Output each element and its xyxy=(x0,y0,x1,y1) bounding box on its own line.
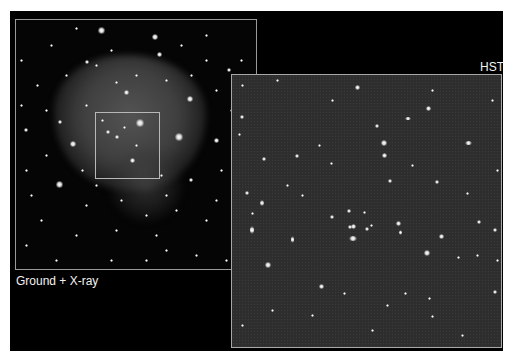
galaxy xyxy=(311,314,314,317)
star xyxy=(45,109,48,112)
star xyxy=(240,59,243,62)
galaxy xyxy=(343,292,346,295)
galaxy xyxy=(381,140,387,146)
galaxy xyxy=(461,334,464,337)
star xyxy=(56,181,63,188)
star xyxy=(55,259,58,262)
galaxy xyxy=(301,194,304,197)
galaxy xyxy=(466,192,469,195)
galaxy xyxy=(286,184,289,187)
galaxy xyxy=(365,227,369,231)
star xyxy=(175,209,178,212)
galaxy xyxy=(330,162,333,165)
ground-xray-label: Ground + X-ray xyxy=(16,275,98,287)
galaxy xyxy=(428,297,431,300)
galaxy xyxy=(295,154,299,158)
galaxy xyxy=(496,259,499,262)
star xyxy=(120,199,123,202)
star xyxy=(187,96,193,102)
galaxy xyxy=(476,254,479,257)
star xyxy=(205,219,208,222)
star xyxy=(175,133,183,141)
galaxy xyxy=(262,157,266,161)
star xyxy=(152,34,158,40)
star xyxy=(190,74,193,77)
star xyxy=(50,44,53,47)
galaxy xyxy=(371,329,374,332)
star xyxy=(85,204,88,207)
galaxy xyxy=(370,224,373,227)
star xyxy=(25,169,28,172)
star xyxy=(205,34,208,37)
hst-label: HST xyxy=(480,61,504,73)
star xyxy=(220,169,223,172)
star xyxy=(75,234,78,237)
star xyxy=(145,259,148,262)
ground-xray-image xyxy=(15,19,257,270)
star xyxy=(20,59,23,62)
star xyxy=(30,194,33,197)
galaxy xyxy=(396,221,401,226)
star xyxy=(214,138,219,143)
star xyxy=(81,169,84,172)
galaxy xyxy=(240,115,244,119)
star xyxy=(135,74,138,77)
galaxy xyxy=(404,292,407,295)
star xyxy=(20,104,23,107)
galaxy xyxy=(330,215,334,219)
galaxy xyxy=(386,304,389,307)
star xyxy=(145,214,148,217)
galaxy xyxy=(424,250,430,256)
star xyxy=(180,44,183,47)
galaxy xyxy=(431,315,434,318)
galaxy xyxy=(241,84,244,87)
star xyxy=(115,81,118,84)
star xyxy=(85,60,89,64)
star xyxy=(225,259,228,262)
galaxy xyxy=(349,236,357,241)
galaxy xyxy=(493,290,497,294)
galaxy xyxy=(347,209,351,213)
galaxy xyxy=(457,256,460,259)
star xyxy=(227,68,231,72)
star xyxy=(95,64,98,67)
star xyxy=(155,234,158,237)
star xyxy=(40,219,43,222)
galaxy xyxy=(431,89,434,92)
galaxy xyxy=(260,200,264,206)
star xyxy=(45,154,48,157)
star xyxy=(36,84,39,87)
star xyxy=(85,104,88,107)
star xyxy=(165,79,168,82)
galaxy xyxy=(251,212,254,215)
star xyxy=(189,178,193,182)
star xyxy=(215,89,218,92)
star xyxy=(58,120,62,124)
galaxy xyxy=(399,230,402,235)
galaxy xyxy=(276,79,279,82)
star xyxy=(75,27,78,30)
galaxy xyxy=(271,309,274,312)
star xyxy=(195,254,198,257)
star xyxy=(98,27,105,34)
galaxy xyxy=(493,228,497,232)
galaxy xyxy=(439,234,444,239)
galaxy xyxy=(331,99,334,102)
galaxy xyxy=(388,179,392,183)
star xyxy=(115,229,118,232)
galaxy xyxy=(265,262,271,268)
star xyxy=(165,194,168,197)
galaxy xyxy=(375,124,379,128)
star xyxy=(157,52,162,57)
galaxy xyxy=(355,85,360,90)
star xyxy=(95,184,98,187)
galaxy xyxy=(435,180,439,184)
galaxy xyxy=(238,133,241,136)
galaxy xyxy=(250,226,254,234)
star xyxy=(70,141,76,147)
galaxy xyxy=(245,191,249,195)
hst-region-outline xyxy=(95,112,160,179)
hst-image xyxy=(231,74,502,348)
galaxy xyxy=(363,211,366,214)
star xyxy=(124,90,129,95)
